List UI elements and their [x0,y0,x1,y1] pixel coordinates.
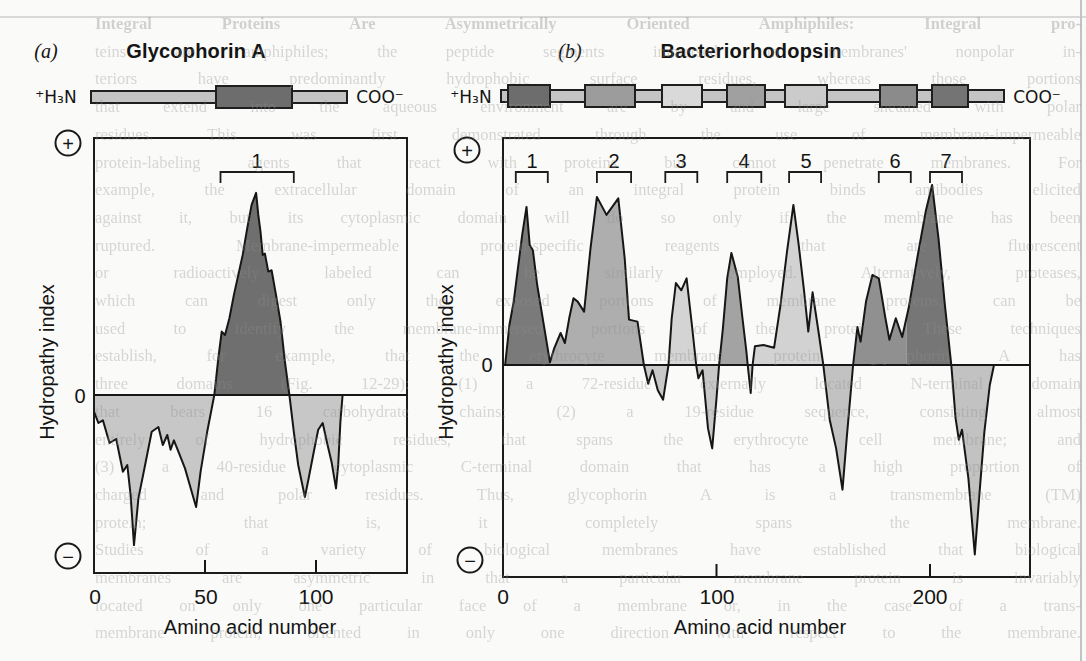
transmembrane-segment-box [584,84,636,108]
panel-b-y-axis-label: Hydropathy index [435,284,458,440]
panel-a-zero-label: 0 [74,385,85,408]
panel-b-segment-3-label: 3 [675,150,686,173]
segment-bracket [789,172,821,183]
hydropathy-fill-region [94,395,214,545]
segment-bracket [727,172,761,183]
panel-b-c-terminus-label: COO⁻ [1013,87,1061,107]
panel-b-x-axis-label: Amino acid number [674,616,846,639]
figure-page: (a) Glycophorin A ⁺H₃N COO⁻ + Hydropathy… [0,0,1086,661]
panel-a-y-axis-label: Hydropathy index [36,284,59,440]
panel-b-x-tick-0: 0 [497,585,509,609]
panel-b-title: Bacteriorhodopsin [660,40,841,63]
panel-a-plus-sign-icon: + [55,130,82,157]
panel-b-n-terminus-label: ⁺H₃N [450,87,491,107]
segment-bracket [665,172,697,183]
panel-b-segment-5-label: 5 [800,150,811,173]
segment-bracket [879,172,911,183]
panel-a-n-terminus-label: ⁺H₃N [35,87,76,107]
transmembrane-segment-box [879,84,918,108]
transmembrane-segment-box [661,84,703,108]
panel-b-letter: (b) [558,40,581,63]
hydropathy-fill-region [719,253,748,365]
panel-b-segment-4-label: 4 [738,150,749,173]
hydropathy-fill-region [907,185,952,365]
panel-a-segment-1-label: 1 [251,150,262,173]
panel-b-segment-6-label: 6 [889,150,900,173]
hydropathy-fill-region [753,205,824,365]
panel-b-x-tick-100: 100 [699,585,734,609]
panel-b-minus-sign-icon: − [457,547,484,574]
panel-b-segment-2-label: 2 [608,150,619,173]
transmembrane-segment-box [784,84,828,108]
panel-a-x-tick-0: 0 [89,585,101,609]
transmembrane-segment-box [507,84,551,108]
panel-a-x-tick-100: 100 [298,585,333,609]
segment-bracket [516,172,548,183]
panel-a-title: Glycophorin A [126,40,266,63]
panel-a-x-tick-50: 50 [194,585,217,609]
panel-a-x-axis-label: Amino acid number [164,616,336,639]
segment-bracket [597,172,631,183]
panel-b-plus-sign-icon: + [454,137,481,164]
panel-a-minus-sign-icon: − [55,543,82,570]
segment-bracket [930,172,962,183]
transmembrane-segment-box [931,84,969,108]
panel-b-x-tick-200: 200 [912,585,947,609]
panel-b-segment-7-label: 7 [940,150,951,173]
panel-b-segment-1-label: 1 [526,150,537,173]
segment-bracket [221,172,294,183]
panel-a-c-terminus-label: COO⁻ [356,87,404,107]
panel-b-zero-label: 0 [481,354,492,377]
panel-a-letter: (a) [34,40,57,63]
transmembrane-segment-box [726,84,766,108]
transmembrane-segment-box [215,85,293,109]
hydropathy-fill-region [214,193,289,395]
